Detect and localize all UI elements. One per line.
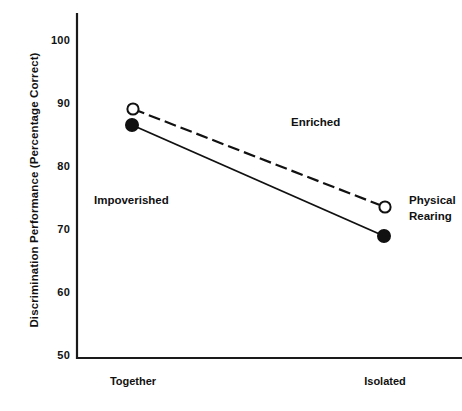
series-line-impoverished	[132, 125, 384, 236]
y-axis-title: Discrimination Performance (Percentage C…	[28, 30, 40, 350]
data-point-impoverished-isolated	[378, 230, 390, 242]
line-chart: 100 90 80 70 60 50 Discrimination Perfor…	[0, 0, 462, 411]
annotation-physical-rearing-line2: Rearing	[409, 209, 456, 225]
data-point-impoverished-together	[126, 119, 138, 131]
annotation-physical-rearing-line1: Physical	[409, 193, 456, 209]
series-line-enriched	[133, 109, 385, 207]
annotation-physical-rearing: Physical Rearing	[409, 193, 456, 224]
xtick-label-isolated: Isolated	[340, 375, 430, 387]
data-point-enriched-isolated	[379, 201, 390, 212]
xtick-label-together: Together	[88, 375, 178, 387]
annotation-enriched: Enriched	[291, 115, 340, 131]
data-point-enriched-together	[127, 103, 138, 114]
annotation-impoverished: Impoverished	[94, 193, 169, 209]
